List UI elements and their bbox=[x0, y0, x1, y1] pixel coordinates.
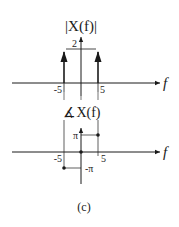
figure-label: (c) bbox=[77, 200, 90, 214]
magnitude-title: |X(f)| bbox=[65, 18, 97, 35]
phase-plot: ∡X(f) f π -π -5 5 bbox=[12, 105, 169, 184]
neg-pi-label: -π bbox=[85, 163, 93, 174]
magnitude-x-axis-label: f bbox=[163, 75, 169, 91]
phase-point-pos5 bbox=[96, 133, 100, 137]
phase-point-origin bbox=[79, 150, 83, 154]
impulse-arrowhead-icon bbox=[95, 51, 102, 62]
tick-label-pos5: 5 bbox=[100, 84, 105, 95]
phase-point-neg5 bbox=[62, 166, 66, 170]
phase-x-axis-label: f bbox=[163, 144, 169, 160]
spectrum-diagram: |X(f)| f 2 -5 5 ∡X(f) f π bbox=[0, 0, 179, 227]
phase-tick-label-neg5: -5 bbox=[54, 153, 62, 164]
tick-label-neg5: -5 bbox=[54, 84, 62, 95]
amplitude-label: 2 bbox=[72, 38, 77, 49]
pi-label: π bbox=[73, 130, 78, 141]
magnitude-plot: |X(f)| f 2 -5 5 bbox=[12, 18, 169, 96]
phase-title: ∡X(f) bbox=[63, 105, 100, 121]
impulse-arrowhead-icon bbox=[61, 51, 68, 62]
phase-tick-label-pos5: 5 bbox=[101, 153, 106, 164]
